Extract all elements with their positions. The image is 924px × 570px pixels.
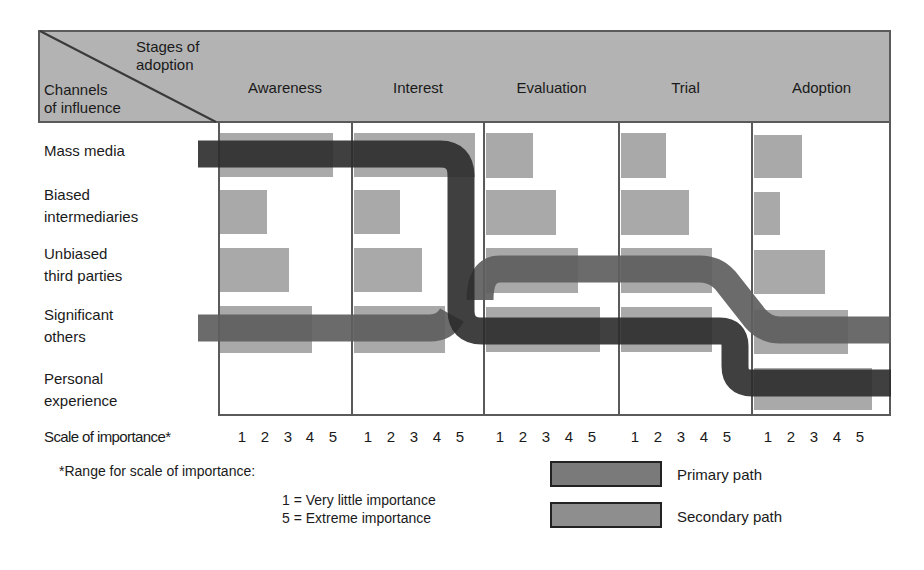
scale-tick: 5 bbox=[453, 428, 467, 445]
legend-primary-label: Primary path bbox=[677, 466, 762, 483]
scale-tick: 4 bbox=[562, 428, 576, 445]
importance-bars-and-paths bbox=[0, 0, 924, 570]
scale-tick: 3 bbox=[807, 428, 821, 445]
scale-tick: 2 bbox=[651, 428, 665, 445]
scale-tick: 3 bbox=[674, 428, 688, 445]
scale-tick: 4 bbox=[303, 428, 317, 445]
scale-tick: 2 bbox=[784, 428, 798, 445]
scale-tick: 2 bbox=[258, 428, 272, 445]
scale-tick: 1 bbox=[493, 428, 507, 445]
scale-tick: 3 bbox=[281, 428, 295, 445]
footnote-scale-1: 1 = Very little importance bbox=[282, 492, 436, 508]
secondary-path-swatch bbox=[550, 502, 662, 528]
footnote-title: *Range for scale of importance: bbox=[59, 463, 255, 479]
scale-tick: 4 bbox=[430, 428, 444, 445]
scale-of-importance-label: Scale of importance* bbox=[44, 428, 170, 445]
scale-tick: 2 bbox=[384, 428, 398, 445]
scale-tick: 1 bbox=[761, 428, 775, 445]
scale-tick: 3 bbox=[407, 428, 421, 445]
scale-tick: 1 bbox=[235, 428, 249, 445]
scale-tick: 2 bbox=[516, 428, 530, 445]
primary-path-swatch bbox=[550, 461, 662, 487]
scale-tick: 5 bbox=[720, 428, 734, 445]
scale-tick: 5 bbox=[326, 428, 340, 445]
scale-tick: 3 bbox=[539, 428, 553, 445]
scale-tick: 4 bbox=[830, 428, 844, 445]
scale-tick: 4 bbox=[697, 428, 711, 445]
scale-tick: 5 bbox=[853, 428, 867, 445]
scale-tick: 5 bbox=[585, 428, 599, 445]
scale-tick: 1 bbox=[628, 428, 642, 445]
legend-secondary-label: Secondary path bbox=[677, 508, 782, 525]
footnote-scale-5: 5 = Extreme importance bbox=[282, 510, 431, 526]
scale-tick: 1 bbox=[361, 428, 375, 445]
